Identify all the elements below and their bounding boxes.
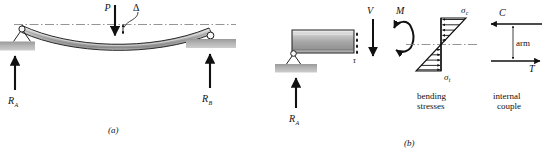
reaction-label-RA-a-main: R — [7, 95, 14, 106]
reaction-label-RB-a-main: R — [201, 93, 208, 104]
shear-stress-label-tau: τ — [353, 56, 357, 65]
bending-stresses-caption-line1: bending — [417, 91, 446, 101]
reaction-label-RA-a-sub: A — [14, 102, 19, 108]
roller-support-right — [207, 32, 214, 39]
reaction-label-RB-a: RB — [201, 93, 213, 106]
load-label-P: P — [104, 2, 111, 13]
ground-block-right — [186, 39, 236, 48]
ground-block-b — [275, 64, 317, 73]
panel-a: P Δ RA RB (a) — [0, 2, 236, 135]
deflection-leader — [124, 12, 138, 28]
reaction-label-RB-a-sub: B — [209, 100, 213, 106]
stress-label-sigma-t: σt — [444, 72, 451, 83]
internal-couple-caption-line2: couple — [497, 101, 521, 111]
bending-stress-diagram: σc σt bending stresses — [406, 5, 478, 111]
stress-label-sigma-t-sub: t — [449, 77, 451, 83]
couple-force-C-label: C — [499, 7, 506, 18]
pin-support-b-legs — [287, 56, 301, 64]
internal-couple-caption-line1: internal — [493, 91, 521, 101]
stress-label-sigma-c-sub: c — [466, 10, 469, 16]
shear-force-label-V: V — [367, 5, 375, 16]
tension-stress-triangle — [416, 45, 441, 72]
bending-stresses-caption-line2: stresses — [417, 101, 445, 111]
reaction-label-RA-b-sub: A — [295, 120, 300, 126]
stress-label-sigma-c: σc — [461, 5, 469, 16]
ground-block-left — [0, 42, 35, 51]
reaction-label-RA-b-main: R — [288, 113, 295, 124]
reaction-label-RA-b: RA — [288, 113, 300, 126]
moment-arc-lower — [396, 45, 412, 52]
couple-arm-label: arm — [516, 38, 530, 48]
couple-force-T-label: T — [529, 63, 536, 74]
pin-support-b-hinge — [291, 51, 297, 57]
internal-couple-diagram: C T arm internal couple — [491, 7, 542, 111]
moment-label-M: M — [395, 5, 405, 16]
panel-b: RA τ V M — [275, 5, 542, 148]
reaction-label-RA-a: RA — [7, 95, 19, 108]
deflection-label-delta: Δ — [133, 2, 140, 13]
pin-support-left-hinge — [19, 26, 25, 32]
panel-b-caption: (b) — [404, 138, 415, 148]
panel-a-caption: (a) — [108, 125, 119, 135]
engineering-figure: P Δ RA RB (a) — [0, 0, 542, 157]
moment-arc-upper — [394, 22, 413, 45]
figure-canvas: P Δ RA RB (a) — [0, 0, 542, 157]
